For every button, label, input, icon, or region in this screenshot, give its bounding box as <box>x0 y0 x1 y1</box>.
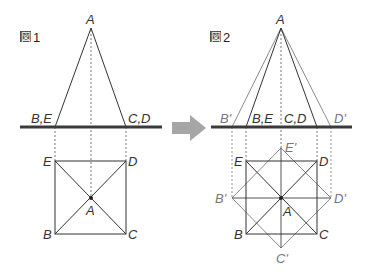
label-d: D <box>319 154 328 169</box>
apex-point <box>279 196 283 200</box>
elevation-triangle <box>55 28 126 127</box>
label-b-prime: B' <box>215 191 227 206</box>
label-d-prime-top: D' <box>334 111 346 126</box>
label-apex: A <box>275 12 285 27</box>
label-b: B <box>43 227 52 242</box>
label-e-prime: E' <box>285 140 297 155</box>
apex-point <box>89 196 93 200</box>
label-apex: A <box>85 12 95 27</box>
label-b: B <box>234 227 243 242</box>
label-e: E <box>234 154 243 169</box>
label-c-d: C,D <box>128 111 150 126</box>
figure-2-number: 2 <box>223 30 230 45</box>
figure-2-title: 図 2 <box>210 30 230 45</box>
figure-1-glyph: 図 <box>21 32 31 43</box>
label-d: D <box>128 154 137 169</box>
figure-1: 図 1 A B,E C,D E D B C A <box>20 12 162 242</box>
figure-2-glyph: 図 <box>211 32 221 43</box>
projection-diagram: 図 1 A B,E C,D E D B C A 図 2 <box>0 0 366 274</box>
label-d-prime: D' <box>334 191 346 206</box>
label-c: C <box>128 227 138 242</box>
label-a-center: A <box>85 203 95 218</box>
transition-arrow-icon <box>172 115 206 141</box>
rotated-elevation-triangle <box>232 28 331 127</box>
label-c: C <box>319 227 329 242</box>
label-c-prime: C' <box>276 251 288 266</box>
figure-1-title: 図 1 <box>20 30 40 45</box>
figure-2: 図 2 A B' B,E C,D D' E' E D B' D' <box>210 12 352 266</box>
label-a-center: A <box>282 204 292 219</box>
label-b-prime-top: B' <box>220 111 232 126</box>
label-b-e: B,E <box>31 111 52 126</box>
diagram-stage: 図 1 A B,E C,D E D B C A 図 2 <box>0 0 366 274</box>
label-c-d: C,D <box>284 111 306 126</box>
label-e: E <box>43 154 52 169</box>
label-b-e: B,E <box>252 111 273 126</box>
figure-1-number: 1 <box>33 30 40 45</box>
